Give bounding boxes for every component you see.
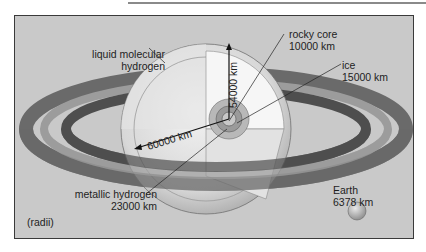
label-ice: ice 15000 km [342,59,388,83]
label-line: 15000 km [342,71,388,83]
top-rule [128,2,426,4]
label-line: Earth [333,184,373,196]
label-liquid-molecular-hydrogen: liquid molecular hydrogen [45,48,165,72]
label-line: rocky core [289,28,337,40]
label-earth: Earth 6378 km [333,184,373,208]
label-line: 23000 km [45,200,157,212]
label-line: hydrogen [45,60,165,72]
diagram-frame: liquid molecular hydrogen rocky core 100… [14,15,414,239]
label-line: metallic hydrogen [45,188,157,200]
label-polar-radius: 54000 km [227,62,239,108]
note-radii: (radii) [27,216,54,228]
label-line: 6378 km [333,196,373,208]
label-metallic-hydrogen: metallic hydrogen 23000 km [45,188,157,212]
label-line: 10000 km [289,40,337,52]
label-rocky-core: rocky core 10000 km [289,28,337,52]
label-line: liquid molecular [45,48,165,60]
label-line: ice [342,59,388,71]
